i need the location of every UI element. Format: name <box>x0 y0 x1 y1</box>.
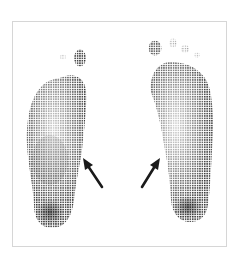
right-big-toe <box>149 41 162 56</box>
right-fourth-toe <box>195 52 200 58</box>
right-second-toe <box>170 39 177 48</box>
footprint-figure <box>0 0 235 255</box>
right-third-toe <box>181 45 189 53</box>
left-small-toe <box>60 55 66 60</box>
left-arrow <box>83 158 102 187</box>
right-arrow <box>142 158 160 187</box>
left-big-toe <box>74 50 86 67</box>
right-footprint <box>149 39 213 223</box>
left-footprint <box>27 50 86 229</box>
